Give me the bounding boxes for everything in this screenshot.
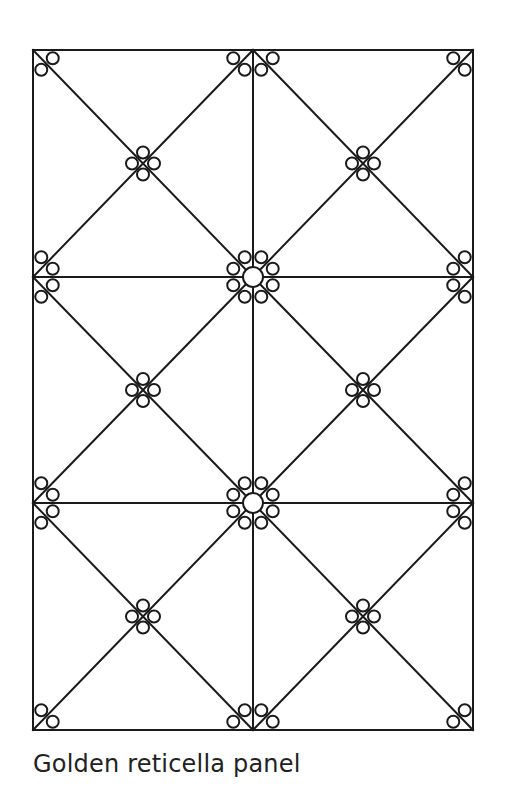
center-ring — [346, 611, 358, 623]
center-ring — [137, 169, 149, 181]
center-ring — [137, 600, 149, 612]
corner-ring — [227, 505, 239, 517]
corner-ring — [255, 291, 267, 303]
corner-ring — [267, 279, 279, 291]
corner-ring — [459, 64, 471, 76]
corner-ring — [239, 477, 251, 489]
center-ring — [357, 147, 369, 159]
corner-ring — [447, 505, 459, 517]
corner-ring — [267, 52, 279, 64]
corner-ring — [459, 251, 471, 263]
center-ring — [148, 611, 160, 623]
corner-ring — [267, 505, 279, 517]
corner-ring — [447, 716, 459, 728]
corner-ring — [35, 64, 47, 76]
center-ring — [137, 622, 149, 634]
center-ring — [137, 147, 149, 159]
corner-ring — [255, 704, 267, 716]
corner-ring — [35, 517, 47, 529]
center-ring — [346, 384, 358, 396]
corner-ring — [447, 279, 459, 291]
center-ring — [357, 622, 369, 634]
center-ring — [357, 169, 369, 181]
corner-ring — [47, 263, 59, 275]
corner-ring — [459, 704, 471, 716]
corner-ring — [255, 251, 267, 263]
corner-ring — [459, 291, 471, 303]
corner-ring — [47, 489, 59, 501]
center-ring — [126, 384, 138, 396]
corner-ring — [35, 477, 47, 489]
corner-ring — [47, 716, 59, 728]
corner-ring — [255, 64, 267, 76]
center-ring — [126, 158, 138, 170]
corner-ring — [35, 251, 47, 263]
center-ring — [368, 384, 380, 396]
corner-ring — [239, 704, 251, 716]
corner-ring — [227, 279, 239, 291]
junction-ring — [243, 493, 263, 513]
center-ring — [368, 611, 380, 623]
center-ring — [148, 384, 160, 396]
corner-ring — [267, 716, 279, 728]
corner-ring — [47, 279, 59, 291]
corner-ring — [35, 704, 47, 716]
corner-ring — [447, 263, 459, 275]
panel-lines — [33, 50, 473, 730]
corner-ring — [47, 505, 59, 517]
center-ring — [137, 373, 149, 385]
corner-ring — [227, 52, 239, 64]
center-ring — [346, 158, 358, 170]
corner-ring — [227, 489, 239, 501]
corner-ring — [267, 263, 279, 275]
corner-ring — [447, 52, 459, 64]
corner-ring — [35, 291, 47, 303]
corner-ring — [267, 489, 279, 501]
corner-ring — [459, 477, 471, 489]
center-ring — [137, 395, 149, 407]
center-ring — [368, 158, 380, 170]
reticella-panel-diagram — [0, 0, 515, 789]
corner-ring — [447, 489, 459, 501]
corner-ring — [459, 517, 471, 529]
corner-ring — [239, 517, 251, 529]
corner-ring — [239, 251, 251, 263]
corner-ring — [227, 263, 239, 275]
center-ring — [357, 600, 369, 612]
center-ring — [357, 373, 369, 385]
center-ring — [148, 158, 160, 170]
junction-ring — [243, 267, 263, 287]
center-ring — [126, 611, 138, 623]
diagram-caption: Golden reticella panel — [33, 750, 301, 778]
center-ring — [357, 395, 369, 407]
corner-ring — [239, 64, 251, 76]
corner-ring — [255, 517, 267, 529]
corner-ring — [227, 716, 239, 728]
corner-ring — [47, 52, 59, 64]
corner-ring — [239, 291, 251, 303]
corner-ring — [255, 477, 267, 489]
